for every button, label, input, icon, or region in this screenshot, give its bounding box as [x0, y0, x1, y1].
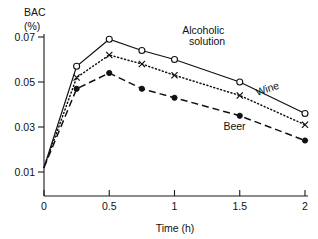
y-axis-title-line2: (%) [24, 20, 40, 32]
data-point-marker [237, 79, 243, 85]
x-tick-label: 1 [172, 200, 178, 212]
data-point-marker [139, 61, 145, 67]
x-tick-label: 0 [41, 200, 47, 212]
x-axis-ticks: 00.511.52 [41, 190, 308, 212]
x-tick-label: 0.5 [102, 200, 117, 212]
series-annotation-label: Alcoholic [182, 24, 224, 36]
y-axis-ticks: 0.010.030.050.07 [15, 31, 44, 178]
data-point-marker [74, 63, 80, 69]
x-axis-title: Time (h) [156, 222, 195, 234]
data-point-marker [302, 122, 308, 128]
data-point-marker [237, 113, 242, 118]
series-annotation-label: solution [189, 35, 225, 47]
chart-canvas: 0.010.030.050.07 00.511.52 Alcoholicsolu… [0, 0, 318, 239]
y-tick-label: 0.05 [15, 76, 36, 88]
data-point-marker [74, 86, 79, 91]
data-series-group [44, 36, 308, 167]
x-tick-label: 2 [302, 200, 308, 212]
data-point-marker [302, 111, 308, 117]
data-point-marker [172, 57, 178, 63]
bac-vs-time-chart: 0.010.030.050.07 00.511.52 Alcoholicsolu… [0, 0, 318, 239]
data-point-marker [139, 48, 145, 54]
x-tick-label: 1.5 [232, 200, 247, 212]
data-point-marker [139, 86, 144, 91]
data-point-marker [172, 95, 177, 100]
data-point-marker [106, 36, 112, 42]
series-wine [44, 52, 308, 168]
y-tick-label: 0.01 [15, 166, 36, 178]
data-point-marker [302, 138, 307, 143]
y-tick-label: 0.07 [15, 31, 36, 43]
series-annotations: AlcoholicsolutionWineBeer [182, 24, 280, 133]
series-annotation-label: Beer [223, 120, 246, 132]
series-line [44, 55, 305, 168]
data-point-marker [107, 70, 112, 75]
y-tick-label: 0.03 [15, 121, 36, 133]
series-alcoholic-solution [44, 36, 308, 167]
y-axis-title-line1: BAC [24, 6, 46, 18]
